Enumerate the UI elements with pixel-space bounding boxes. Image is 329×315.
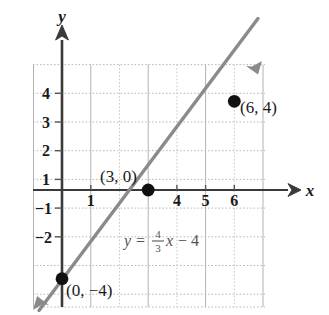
- y-tick-label-2: 2: [42, 142, 50, 159]
- x-tick-label-4: 4: [173, 192, 181, 209]
- equation-minus: −: [178, 232, 187, 249]
- equation-variable: x: [165, 232, 173, 249]
- point-3-0: [142, 184, 155, 197]
- equation-lhs: y: [122, 232, 132, 250]
- y-tick-label-neg1: −1: [35, 200, 52, 217]
- line-graph-figure: 4 3 2 1 −1 −2 1 4 5 6 y x (3, 0) (6, 4) …: [0, 0, 329, 315]
- equation-numerator: 4: [155, 228, 161, 240]
- y-tick-label-neg2: −2: [35, 229, 52, 246]
- equation-denominator: 3: [155, 242, 161, 254]
- point-label-0-neg4: (0, −4): [66, 281, 112, 300]
- function-line-group: [33, 19, 262, 311]
- x-tick-label-1: 1: [87, 192, 95, 209]
- x-axis-arrowhead: [288, 184, 301, 197]
- equation-annotation: y = 4 3 x − 4: [122, 228, 199, 254]
- y-axis-label: y: [56, 7, 66, 26]
- y-tick-label-3: 3: [42, 114, 50, 131]
- x-axis-label: x: [305, 181, 315, 200]
- y-tick-label-1: 1: [42, 171, 50, 188]
- point-label-3-0: (3, 0): [100, 167, 137, 186]
- line-arrowhead-upper: [246, 61, 262, 75]
- y-axis-arrowhead: [56, 25, 69, 40]
- x-tick-label-6: 6: [230, 192, 238, 209]
- point-6-4: [228, 95, 241, 108]
- graph-canvas: 4 3 2 1 −1 −2 1 4 5 6 y x (3, 0) (6, 4) …: [0, 0, 329, 315]
- equation-constant: 4: [191, 232, 199, 249]
- equation-equals: =: [136, 232, 145, 249]
- point-label-6-4: (6, 4): [240, 98, 277, 117]
- x-tick-label-5: 5: [202, 192, 210, 209]
- y-tick-label-4: 4: [42, 85, 50, 102]
